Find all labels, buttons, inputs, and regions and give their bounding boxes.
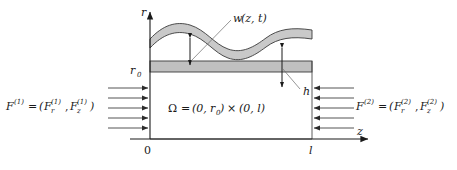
domain-r-open: (0, bbox=[192, 102, 207, 115]
force1-z-sup: (1) bbox=[77, 98, 87, 106]
schematic-diagram: r z 0 l r 0 w (z, t) h Ω = (0, r 0 ) × (… bbox=[0, 0, 457, 170]
domain-r-close: ) bbox=[219, 102, 224, 115]
wavy-band-shape bbox=[150, 24, 312, 60]
force2-close-paren: ) bbox=[439, 100, 444, 113]
r-axis-label: r bbox=[141, 6, 147, 19]
right-force-arrows bbox=[314, 88, 354, 128]
strip-shape bbox=[150, 61, 312, 72]
force-right-label: F (2) = ( F r (2) , F z (2) ) bbox=[355, 98, 444, 115]
force2-equals: = bbox=[378, 100, 387, 113]
force2-comma: , bbox=[415, 100, 419, 113]
force2-superscript: (2) bbox=[364, 98, 374, 106]
domain-rectangle bbox=[150, 61, 312, 139]
force1-symbol: F bbox=[5, 100, 14, 113]
deflection-args: (z, t) bbox=[241, 12, 267, 25]
force2-r-sup: (2) bbox=[401, 98, 411, 106]
force1-comma: , bbox=[65, 100, 69, 113]
wall-thickness-strip bbox=[150, 61, 312, 72]
force2-symbol: F bbox=[355, 100, 364, 113]
force1-z-sub: z bbox=[76, 107, 81, 115]
left-force-arrows bbox=[108, 88, 148, 128]
force1-equals: = bbox=[28, 100, 37, 113]
force1-r-sup: (1) bbox=[51, 98, 61, 106]
domain-symbol: Ω bbox=[168, 102, 177, 115]
force1-superscript: (1) bbox=[14, 98, 24, 106]
deflection-label: w (z, t) bbox=[233, 12, 267, 25]
domain-times: × bbox=[227, 102, 236, 115]
force-left-label: F (1) = ( F r (1) , F z (1) ) bbox=[5, 98, 94, 115]
r0-subscript: 0 bbox=[137, 71, 142, 79]
origin-label: 0 bbox=[144, 144, 151, 157]
r0-tick-label: r 0 bbox=[130, 64, 142, 79]
domain-label: Ω = (0, r 0 ) × (0, l) bbox=[168, 102, 265, 117]
elastic-wall-band bbox=[150, 24, 312, 60]
force2-z-sup: (2) bbox=[427, 98, 437, 106]
force1-close-paren: ) bbox=[89, 100, 94, 113]
force1-r-sub: r bbox=[51, 107, 55, 115]
force2-z-sub: z bbox=[426, 107, 431, 115]
figure-container: r z 0 l r 0 w (z, t) h Ω = (0, r 0 ) × (… bbox=[0, 0, 457, 170]
force2-r-sub: r bbox=[401, 107, 405, 115]
z-axis-label: z bbox=[356, 125, 363, 138]
length-tick-label: l bbox=[309, 144, 313, 157]
r0-base: r bbox=[130, 64, 136, 77]
thickness-label: h bbox=[303, 85, 310, 98]
domain-equals: = bbox=[181, 102, 190, 115]
domain-z-interval: (0, l) bbox=[239, 102, 265, 115]
